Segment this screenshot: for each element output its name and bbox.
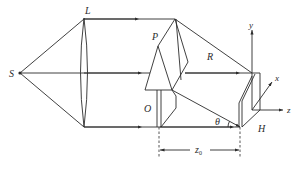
- coordinate-axes: y x z: [248, 20, 291, 115]
- collimating-lens: L: [81, 5, 92, 127]
- hologram-plate: H: [239, 73, 266, 134]
- distance-dimension: z0: [159, 127, 240, 158]
- distance-label: z0: [194, 144, 202, 156]
- axis-y-label: y: [248, 20, 253, 30]
- axis-x-label: x: [274, 73, 279, 83]
- angle-label: θ: [215, 116, 220, 127]
- object-beam: [172, 90, 240, 127]
- collimated-rays: [84, 19, 252, 127]
- point-source: S: [9, 68, 22, 79]
- object-label: O: [144, 103, 151, 114]
- prism-label: P: [151, 31, 158, 42]
- diverging-rays: [20, 19, 84, 127]
- holography-setup-diagram: S L P R: [0, 0, 300, 171]
- lens-label: L: [84, 5, 91, 16]
- reference-beam-label: R: [206, 51, 213, 62]
- object-plate: O: [144, 90, 176, 127]
- source-label: S: [9, 68, 14, 79]
- axis-z-label: z: [286, 105, 291, 115]
- hologram-label: H: [257, 123, 266, 134]
- prism: P: [145, 19, 188, 90]
